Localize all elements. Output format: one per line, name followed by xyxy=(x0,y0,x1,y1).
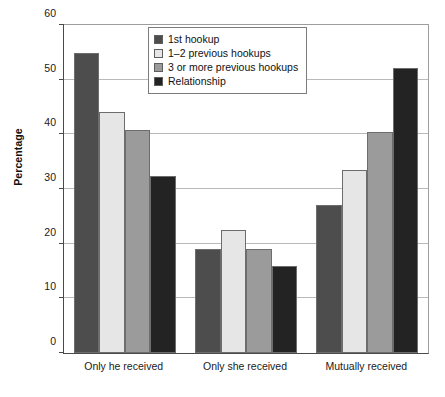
legend-label: 3 or more previous hookups xyxy=(168,61,298,73)
bar xyxy=(367,132,393,353)
legend-item: 1st hookup xyxy=(154,32,298,46)
y-axis-tick xyxy=(59,24,64,25)
y-axis-tick xyxy=(59,352,64,353)
x-axis-label: Only she received xyxy=(184,360,305,372)
legend-label: 1st hookup xyxy=(168,33,219,45)
bar xyxy=(125,130,151,353)
y-axis-label: 30 xyxy=(44,171,56,183)
x-axis-label: Only he received xyxy=(63,360,184,372)
bar-group xyxy=(316,25,418,353)
legend-swatch-icon xyxy=(154,77,163,86)
y-axis-title: Percentage xyxy=(12,117,24,197)
legend-item: 1–2 previous hookups xyxy=(154,46,298,60)
bar xyxy=(195,249,221,353)
y-axis-tick xyxy=(59,188,64,189)
legend-swatch-icon xyxy=(154,35,163,44)
bar xyxy=(221,230,247,353)
y-axis-tick xyxy=(59,79,64,80)
legend-item: 3 or more previous hookups xyxy=(154,60,298,74)
y-axis-label: 50 xyxy=(44,62,56,74)
y-axis-label: 60 xyxy=(44,7,56,19)
y-axis-label: 40 xyxy=(44,116,56,128)
bar xyxy=(74,53,100,353)
y-axis-label: 0 xyxy=(50,335,56,347)
legend-label: Relationship xyxy=(168,75,226,87)
bar xyxy=(272,266,298,353)
chart-legend: 1st hookup1–2 previous hookups3 or more … xyxy=(148,27,307,94)
bar-chart: Percentage 0102030405060 Only he receive… xyxy=(0,0,445,397)
bar xyxy=(393,68,419,353)
y-axis-tick xyxy=(59,297,64,298)
legend-swatch-icon xyxy=(154,49,163,58)
bar xyxy=(342,170,368,353)
bar xyxy=(150,176,176,353)
bar xyxy=(246,249,272,353)
bar xyxy=(99,112,125,353)
legend-item: Relationship xyxy=(154,74,298,88)
y-axis-tick xyxy=(59,133,64,134)
x-axis-label: Mutually received xyxy=(306,360,427,372)
y-axis-label: 20 xyxy=(44,226,56,238)
y-axis-label: 10 xyxy=(44,280,56,292)
legend-label: 1–2 previous hookups xyxy=(168,47,271,59)
legend-swatch-icon xyxy=(154,63,163,72)
y-axis-tick xyxy=(59,243,64,244)
bar xyxy=(316,205,342,353)
